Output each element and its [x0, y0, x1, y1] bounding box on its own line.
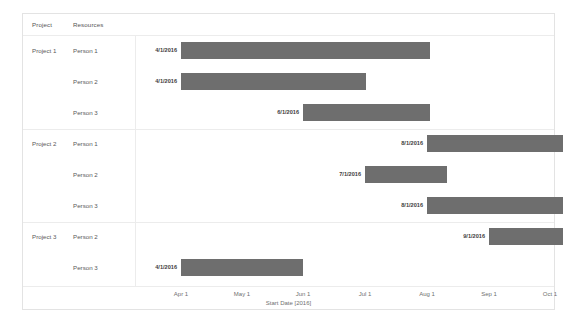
resource-name-cell: Person 2: [73, 233, 98, 240]
project-name-cell: Project 1: [32, 47, 56, 54]
x-axis-tick-label: Jun 1: [296, 291, 311, 297]
gantt-bar[interactable]: [427, 197, 563, 214]
project-group-separator: [23, 222, 554, 223]
resource-name-cell: Person 2: [73, 171, 98, 178]
gantt-bar-start-label: 4/1/2016: [119, 78, 177, 84]
resource-name-cell: Person 2: [73, 78, 98, 85]
x-axis: Apr 1May 1Jun 1Jul 1Aug 1Sep 1Oct 1 Star…: [23, 286, 554, 311]
resource-name-cell: Person 3: [73, 202, 98, 209]
resource-name-cell: Person 3: [73, 264, 98, 271]
gantt-bar-start-label: 6/1/2016: [241, 109, 299, 115]
gantt-bar[interactable]: [489, 228, 563, 245]
resource-name-cell: Person 1: [73, 47, 98, 54]
gantt-bar[interactable]: [303, 104, 430, 121]
x-axis-tick-label: Oct 1: [543, 291, 557, 297]
x-axis-tick-label: Sep 1: [481, 291, 497, 297]
project-name-cell: Project 3: [32, 233, 56, 240]
gantt-bar-start-label: 9/1/2016: [427, 233, 485, 239]
gantt-bar-start-label: 4/1/2016: [119, 264, 177, 270]
x-axis-title: Start Date [2016]: [23, 300, 554, 306]
gantt-chart-card: Project Resources Project 1Person 1Perso…: [22, 13, 555, 310]
column-header-resources: Resources: [73, 21, 103, 28]
project-name-cell: Project 2: [32, 140, 56, 147]
x-axis-tick-label: Apr 1: [174, 291, 188, 297]
column-header-row: Project Resources: [23, 14, 554, 36]
gantt-bar-start-label: 8/1/2016: [365, 202, 423, 208]
gantt-bar-start-label: 4/1/2016: [119, 47, 177, 53]
resource-name-cell: Person 3: [73, 109, 98, 116]
resource-name-cell: Person 1: [73, 140, 98, 147]
gantt-bar[interactable]: [181, 42, 430, 59]
gantt-bar-start-label: 8/1/2016: [365, 140, 423, 146]
x-axis-tick-label: May 1: [234, 291, 250, 297]
x-axis-tick-label: Jul 1: [359, 291, 372, 297]
gantt-bar[interactable]: [181, 259, 303, 276]
x-axis-tick-label: Aug 1: [419, 291, 435, 297]
gantt-bar[interactable]: [365, 166, 447, 183]
column-header-project: Project: [32, 21, 52, 28]
gantt-bar[interactable]: [181, 73, 366, 90]
gantt-bar-start-label: 7/1/2016: [303, 171, 361, 177]
gantt-body: Project 1Person 1Person 2Person 3Project…: [23, 36, 554, 286]
gantt-bar[interactable]: [427, 135, 563, 152]
gantt-plot-area: 4/1/20164/1/20166/1/20168/1/20167/1/2016…: [136, 36, 554, 286]
project-group-separator: [23, 129, 554, 130]
